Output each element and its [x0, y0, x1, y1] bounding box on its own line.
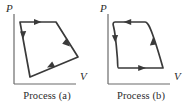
panel-process-a: P V Process (a) [0, 0, 94, 111]
cycle-path-a [20, 22, 78, 77]
arrow-bottom-right-b [138, 65, 146, 71]
arrow-left-down-b [112, 35, 118, 43]
cycle-path-b [113, 22, 163, 68]
arrow-lower-right-down-left-a [47, 61, 55, 67]
pv-plot-b: P V [94, 0, 188, 92]
caption-a: Process (a) [0, 90, 94, 101]
cycle-outline-a [20, 22, 78, 77]
y-axis-label-b: P [99, 2, 107, 14]
arrow-left-up-a [20, 31, 26, 39]
x-axis-label-a: V [80, 70, 88, 82]
cycle-outline-b [113, 22, 163, 68]
pv-plot-a: P V [0, 0, 94, 92]
caption-b: Process (b) [94, 90, 188, 101]
y-axis-label-a: P [5, 2, 13, 14]
axes-a [14, 14, 76, 84]
pv-diagram-figure: P V Process (a) [0, 0, 188, 111]
x-axis-label-b: V [174, 70, 182, 82]
arrow-top-left-b [124, 19, 132, 25]
arrow-top-right-a [34, 19, 42, 25]
panel-process-b: P V Process (b) [94, 0, 188, 111]
